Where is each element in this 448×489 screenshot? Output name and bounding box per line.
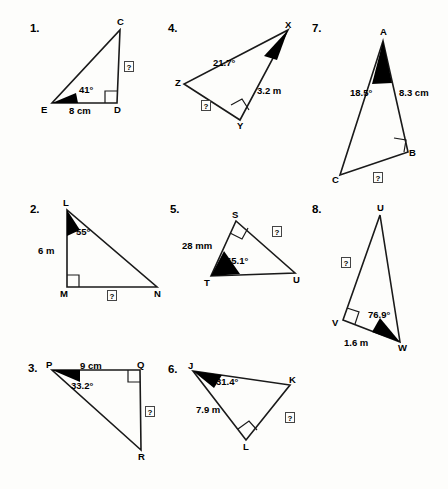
problem-number-2: 2. bbox=[30, 203, 39, 215]
side-measure-3: 9 cm bbox=[80, 361, 102, 371]
vertex-label-B: B bbox=[409, 148, 416, 158]
vertex-label-T: T bbox=[204, 278, 210, 288]
side-measure-6: 7.9 m bbox=[196, 405, 220, 415]
problem-number-3: 3. bbox=[28, 362, 37, 374]
vertex-label-P: P bbox=[46, 360, 52, 370]
unknown-side-box-7[interactable]: ? bbox=[373, 172, 383, 183]
angle-measure-1: 41° bbox=[79, 85, 93, 95]
side-measure-5: 28 mm bbox=[182, 241, 212, 251]
vertex-label-A: A bbox=[380, 27, 387, 37]
vertex-label-M: M bbox=[60, 289, 68, 299]
side-measure-4: 3.2 m bbox=[257, 86, 281, 96]
vertex-label-Z: X bbox=[285, 20, 291, 30]
unknown-side-box-6[interactable]: ? bbox=[285, 412, 295, 423]
side-measure-1: 8 cm bbox=[69, 106, 91, 116]
triangle-4 bbox=[184, 30, 288, 120]
unknown-side-box-2[interactable]: ? bbox=[107, 290, 117, 301]
vertex-label-Y: Y bbox=[237, 121, 243, 131]
vertex-label-L: L bbox=[243, 442, 249, 452]
vertex-label-J: J bbox=[188, 361, 193, 371]
unknown-side-box-3[interactable]: ? bbox=[145, 406, 155, 417]
vertex-label-L: L bbox=[63, 198, 69, 208]
vertex-label-K: K bbox=[289, 375, 296, 385]
problem-number-4: 4. bbox=[168, 22, 177, 34]
unknown-side-box-4[interactable]: ? bbox=[201, 100, 211, 111]
triangle-5 bbox=[211, 221, 295, 276]
angle-measure-2: 55° bbox=[76, 227, 90, 237]
problem-number-6: 6. bbox=[168, 363, 177, 375]
problem-number-7: 7. bbox=[312, 22, 321, 34]
vertex-label-Q: Q bbox=[137, 360, 144, 370]
problem-number-1: 1. bbox=[30, 22, 39, 34]
vertex-label-U: U bbox=[377, 203, 384, 213]
vertex-label-U: U bbox=[293, 275, 300, 285]
unknown-side-box-8[interactable]: ? bbox=[341, 257, 351, 268]
vertex-label-N: N bbox=[154, 289, 161, 299]
vertex-label-V: V bbox=[332, 318, 338, 328]
triangle-3 bbox=[52, 370, 141, 450]
vertex-label-W: W bbox=[398, 343, 407, 353]
angle-measure-4: 21.7° bbox=[213, 58, 235, 68]
side-measure-7: 8.3 cm bbox=[399, 88, 429, 98]
triangle-8 bbox=[343, 215, 400, 342]
vertex-label-S: S bbox=[232, 210, 238, 220]
worksheet-page: 1. C D E 41° 8 cm ? 2. L M N 55° 6 m ? 3… bbox=[0, 0, 448, 489]
vertex-label-X: Z bbox=[175, 78, 181, 88]
angle-measure-5: 65.1° bbox=[226, 256, 248, 266]
problem-number-5: 5. bbox=[170, 203, 179, 215]
triangle-figures-layer bbox=[0, 0, 448, 489]
angle-measure-3: 33.2° bbox=[71, 381, 93, 391]
unknown-side-box-1[interactable]: ? bbox=[124, 61, 134, 72]
side-measure-8: 1.6 m bbox=[344, 338, 368, 348]
problem-number-8: 8. bbox=[312, 203, 321, 215]
unknown-side-box-5[interactable]: ? bbox=[272, 226, 282, 237]
vertex-label-D: D bbox=[114, 105, 121, 115]
vertex-label-C: C bbox=[117, 17, 124, 27]
vertex-label-C: C bbox=[332, 175, 339, 185]
vertex-label-E: E bbox=[41, 105, 47, 115]
angle-measure-8: 76.9° bbox=[368, 310, 390, 320]
vertex-label-R: R bbox=[138, 452, 145, 462]
side-measure-2: 6 m bbox=[38, 246, 54, 256]
triangle-7 bbox=[340, 41, 408, 175]
angle-measure-6: 31.4° bbox=[216, 377, 238, 387]
triangle-2 bbox=[67, 210, 157, 287]
angle-measure-7: 18.5° bbox=[350, 88, 372, 98]
